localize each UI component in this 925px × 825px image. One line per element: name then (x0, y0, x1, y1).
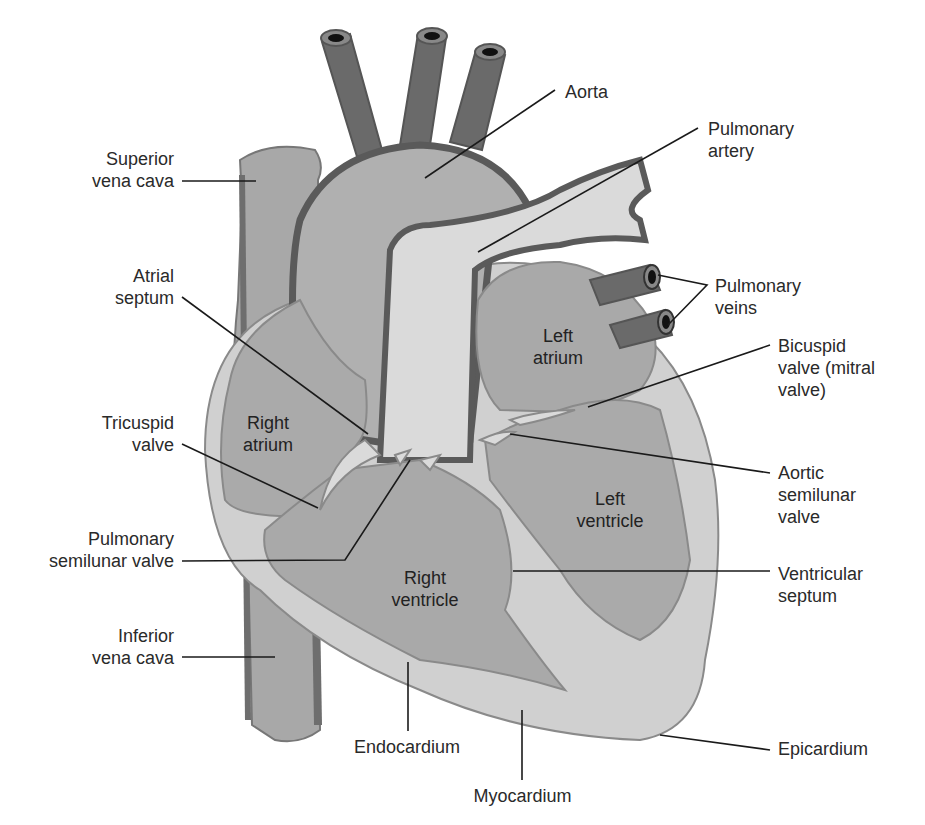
label-superior-vena-cava: Superior vena cava (92, 148, 174, 192)
chamber-label-right-ventricle: Right ventricle (375, 567, 475, 611)
label-pulmonary-veins: Pulmonary veins (715, 275, 801, 319)
label-aortic-semilunar-valve: Aortic semilunar valve (778, 462, 856, 528)
label-epicardium: Epicardium (778, 738, 868, 760)
chamber-label-left-ventricle: Left ventricle (560, 488, 660, 532)
aortic-branches (321, 28, 505, 160)
label-pulmonary-semilunar-valve: Pulmonary semilunar valve (49, 528, 174, 572)
label-endocardium: Endocardium (342, 736, 472, 758)
label-bicuspid-valve: Bicuspid valve (mitral valve) (778, 335, 875, 401)
heart-diagram: Superior vena cava Atrial septum Tricusp… (0, 0, 925, 825)
chamber-label-right-atrium: Right atrium (228, 412, 308, 456)
label-tricuspid-valve: Tricuspid valve (102, 412, 174, 456)
label-inferior-vena-cava: Inferior vena cava (92, 625, 174, 669)
label-pulmonary-artery: Pulmonary artery (708, 118, 794, 162)
label-ventricular-septum: Ventricular septum (778, 563, 863, 607)
label-aorta: Aorta (565, 81, 608, 103)
chamber-label-left-atrium: Left atrium (518, 325, 598, 369)
label-myocardium: Myocardium (455, 785, 590, 807)
label-atrial-septum: Atrial septum (115, 265, 174, 309)
